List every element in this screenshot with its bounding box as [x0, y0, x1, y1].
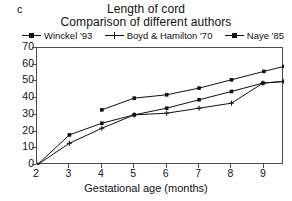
y-tick-label-50: 50 [0, 74, 34, 85]
data-point [282, 65, 284, 69]
data-point [132, 96, 136, 100]
series-1 [37, 79, 284, 165]
y-tick-label-10: 10 [0, 141, 34, 152]
x-tick-mark-8 [230, 164, 231, 168]
data-point [164, 111, 169, 116]
x-tick-label-5: 5 [123, 167, 143, 179]
x-tick-mark-7 [198, 164, 199, 168]
data-point [165, 106, 169, 110]
chart-legend: Winckel '93Boyd & Hamilton '70Naye '85 [22, 29, 284, 42]
x-tick-mark-5 [133, 164, 134, 168]
legend-swatch-cross-icon [105, 31, 124, 40]
x-tick-mark-6 [166, 164, 167, 168]
chart-subtitle: Comparison of different authors [0, 15, 292, 29]
series-line [37, 81, 284, 165]
y-tick-label-30: 30 [0, 108, 34, 119]
legend-swatch-square-icon [22, 31, 41, 40]
data-point [132, 112, 137, 117]
x-axis-tick-labels: 23456789 [0, 167, 292, 183]
legend-label: Naye '85 [247, 30, 284, 41]
data-point [68, 133, 72, 137]
series-line [37, 81, 284, 165]
plot-svg [37, 48, 284, 165]
x-tick-mark-9 [263, 164, 264, 168]
legend-label: Boyd & Hamilton '70 [127, 30, 213, 41]
legend-item-1: Boyd & Hamilton '70 [105, 30, 213, 41]
data-point [262, 70, 266, 74]
plot-area [36, 47, 283, 164]
series-0 [37, 80, 284, 165]
legend-label: Winckel '93 [44, 30, 92, 41]
data-point [100, 121, 104, 125]
data-point [260, 81, 265, 86]
legend-swatch-square-icon [225, 31, 244, 40]
data-point [281, 79, 284, 84]
series-line [102, 66, 284, 109]
data-point [230, 78, 234, 82]
y-tick-label-70: 70 [0, 41, 34, 52]
figure-panel-c: c Length of cord Comparison of different… [0, 0, 292, 201]
x-tick-mark-4 [101, 164, 102, 168]
series-2 [100, 65, 284, 112]
data-point [196, 106, 201, 111]
x-tick-label-8: 8 [220, 167, 240, 179]
data-point [197, 98, 201, 102]
x-tick-label-7: 7 [188, 167, 208, 179]
chart-title: Length of cord [0, 2, 292, 16]
data-point [165, 93, 169, 97]
y-tick-label-20: 20 [0, 125, 34, 136]
x-tick-label-4: 4 [91, 167, 111, 179]
y-tick-label-60: 60 [0, 58, 34, 69]
x-tick-label-9: 9 [253, 167, 273, 179]
data-point [100, 108, 104, 112]
x-tick-label-2: 2 [26, 167, 46, 179]
y-axis-tick-labels: 010203040506070 [0, 41, 34, 171]
data-point [229, 101, 234, 106]
data-point [230, 90, 234, 94]
y-tick-label-40: 40 [0, 91, 34, 102]
data-point [99, 126, 104, 131]
x-tick-label-6: 6 [156, 167, 176, 179]
legend-item-2: Naye '85 [225, 30, 284, 41]
x-tick-mark-3 [68, 164, 69, 168]
x-tick-label-3: 3 [58, 167, 78, 179]
x-axis-title: Gestational age (months) [0, 182, 292, 195]
y-tick-mark-0 [32, 164, 36, 165]
data-point [197, 86, 201, 90]
